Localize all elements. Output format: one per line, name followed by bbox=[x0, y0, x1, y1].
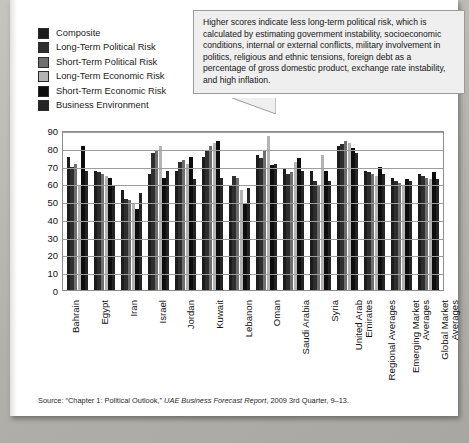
legend-label: Long-Term Political Risk bbox=[56, 43, 156, 52]
bar-chart: 0102030405060708090 bbox=[28, 126, 448, 298]
y-axis-tick-label: 50 bbox=[28, 197, 58, 208]
bar-group bbox=[145, 132, 172, 290]
y-axis-labels: 0102030405060708090 bbox=[28, 126, 58, 298]
bar bbox=[418, 174, 421, 290]
bar bbox=[205, 150, 208, 290]
y-axis-tick-label: 80 bbox=[28, 143, 58, 154]
x-axis-label-text: Iran bbox=[129, 300, 139, 317]
x-axis-label-text: Israel bbox=[158, 300, 168, 323]
bar-group bbox=[361, 132, 388, 290]
gridline bbox=[63, 274, 443, 275]
bar bbox=[202, 157, 205, 290]
bar bbox=[94, 171, 97, 290]
bar bbox=[267, 136, 270, 290]
bar bbox=[321, 155, 324, 290]
bar bbox=[324, 171, 327, 290]
bar-group bbox=[334, 132, 361, 290]
bar-group bbox=[415, 132, 442, 290]
y-axis-tick-label: 20 bbox=[28, 250, 58, 261]
bar bbox=[132, 204, 135, 290]
y-axis-tick-label: 90 bbox=[28, 126, 58, 137]
bar bbox=[259, 158, 262, 290]
bar bbox=[128, 200, 131, 290]
x-axis-label-text: Lebanon bbox=[244, 300, 254, 337]
bar bbox=[425, 178, 428, 290]
x-axis-label: Jordan bbox=[177, 300, 206, 390]
x-axis-label: Oman bbox=[263, 300, 292, 390]
bar bbox=[344, 141, 347, 290]
x-axis-label: Iran bbox=[119, 300, 148, 390]
bar-group bbox=[91, 132, 118, 290]
bar-group bbox=[226, 132, 253, 290]
callout-tail-icon bbox=[232, 98, 276, 114]
bar bbox=[216, 141, 219, 290]
x-axis-label-text: United Arab Emirates bbox=[354, 300, 374, 384]
bar bbox=[232, 176, 235, 290]
bar-group bbox=[64, 132, 91, 290]
source-prefix: Source: “Chapter 1: Political Outlook,” bbox=[38, 396, 164, 405]
bar bbox=[220, 178, 223, 290]
x-axis-label-text: Kuwait bbox=[215, 300, 225, 329]
bar bbox=[175, 171, 178, 290]
bar bbox=[297, 158, 300, 290]
bar bbox=[256, 155, 259, 290]
bar-groups bbox=[63, 132, 443, 290]
bar bbox=[351, 148, 354, 290]
x-axis-label: Saudi Arabia bbox=[292, 300, 321, 390]
x-axis-label: Lebanon bbox=[234, 300, 263, 390]
x-axis-label-text: Jordan bbox=[186, 300, 196, 329]
bar bbox=[101, 174, 104, 290]
bar bbox=[270, 165, 273, 290]
legend-label: Business Environment bbox=[56, 101, 149, 110]
plot-area bbox=[62, 131, 444, 291]
x-axis-label: Regional Averages bbox=[378, 300, 407, 390]
x-axis-label-text: Oman bbox=[272, 300, 282, 326]
bar bbox=[432, 172, 435, 290]
bar bbox=[67, 157, 70, 290]
annotation-text: Higher scores indicate less long-term po… bbox=[203, 17, 456, 87]
figure-page: CompositeLong-Term Political RiskShort-T… bbox=[10, 0, 458, 416]
legend-item: Short-Term Economic Risk bbox=[38, 84, 198, 99]
bar bbox=[286, 174, 289, 290]
gridline bbox=[63, 185, 443, 186]
y-axis-tick-label: 70 bbox=[28, 161, 58, 172]
bar bbox=[105, 176, 108, 290]
x-axis-label-text: Global Market Averages bbox=[440, 300, 460, 384]
bar bbox=[108, 178, 111, 290]
x-axis-label: Emerging Market Averages bbox=[407, 300, 436, 390]
bar bbox=[236, 178, 239, 290]
bar bbox=[371, 174, 374, 290]
bar bbox=[364, 171, 367, 290]
x-axis-labels: BahrainEgyptIranIsraelJordanKuwaitLebano… bbox=[62, 300, 464, 390]
bar bbox=[367, 172, 370, 290]
bar bbox=[421, 176, 424, 290]
bar bbox=[189, 157, 192, 290]
bar bbox=[375, 176, 378, 290]
y-axis-tick-label: 60 bbox=[28, 179, 58, 190]
gridline bbox=[63, 239, 443, 240]
bar-group bbox=[199, 132, 226, 290]
bar bbox=[348, 143, 351, 290]
bar-group bbox=[172, 132, 199, 290]
bar-group bbox=[388, 132, 415, 290]
gridline bbox=[63, 203, 443, 204]
bar bbox=[148, 174, 151, 290]
gridline bbox=[63, 150, 443, 151]
y-axis-tick-label: 30 bbox=[28, 232, 58, 243]
legend-label: Composite bbox=[56, 29, 100, 38]
bar bbox=[382, 174, 385, 290]
bar bbox=[166, 171, 169, 290]
legend-swatch-icon bbox=[38, 57, 49, 68]
legend-item: Long-Term Economic Risk bbox=[38, 70, 198, 85]
bar bbox=[301, 171, 304, 290]
legend-label: Short-Term Political Risk bbox=[56, 58, 157, 67]
y-axis-tick-label: 40 bbox=[28, 214, 58, 225]
bar-group bbox=[280, 132, 307, 290]
source-note: Source: “Chapter 1: Political Outlook,” … bbox=[38, 396, 349, 405]
chart-legend: CompositeLong-Term Political RiskShort-T… bbox=[38, 26, 198, 113]
x-axis-label-text: Bahrain bbox=[71, 300, 81, 333]
x-axis-label: Kuwait bbox=[206, 300, 235, 390]
legend-label: Long-Term Economic Risk bbox=[56, 72, 165, 81]
y-axis-tick-label: 10 bbox=[28, 268, 58, 279]
legend-item: Composite bbox=[38, 26, 198, 41]
